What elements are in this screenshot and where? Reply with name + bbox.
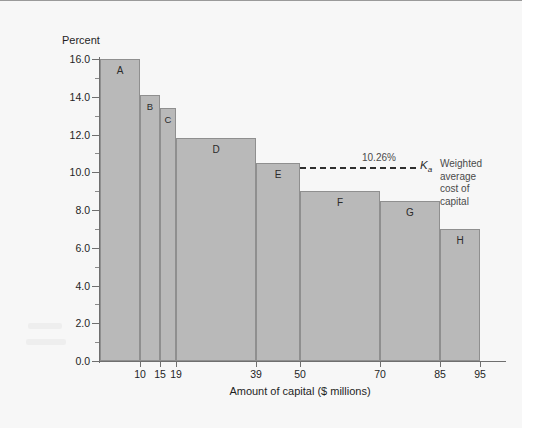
bar-label: B [141, 101, 159, 112]
x-axis-tick-label: 10 [134, 368, 146, 380]
y-axis-tick [92, 135, 99, 136]
wacc-caption-line: average [440, 171, 510, 184]
wacc-caption-line: capital [440, 196, 510, 209]
bar-label: E [257, 169, 299, 180]
y-axis-tick [92, 323, 99, 324]
bar-label: F [301, 197, 379, 208]
y-axis-tick [92, 210, 99, 211]
y-axis-tick-label: 10.0 [30, 166, 90, 178]
y-axis-minor-tick [95, 229, 99, 230]
wacc-symbol-label: Ka [420, 159, 432, 174]
x-axis-title: Amount of capital ($ millions) [100, 385, 500, 397]
wacc-caption-line: Weighted [440, 158, 510, 171]
y-axis-tick [92, 59, 99, 60]
x-axis-tick [256, 362, 257, 367]
y-axis-minor-tick [95, 267, 99, 268]
x-axis-tick [160, 362, 161, 367]
bar-f: F [300, 191, 380, 361]
x-axis-tick [380, 362, 381, 367]
y-axis-minor-tick [95, 78, 99, 79]
x-axis-tick [300, 362, 301, 367]
bar-label: C [161, 114, 175, 125]
x-axis-tick-label: 39 [250, 368, 262, 380]
y-axis-tick-label: 4.0 [30, 280, 90, 292]
figure-panel: Percent 0.02.04.06.08.010.012.014.016.0 … [0, 0, 522, 428]
y-axis-tick [92, 248, 99, 249]
plot-area: ABCDEFGH [100, 59, 500, 361]
wacc-value-label: 10.26% [362, 152, 396, 163]
bar-d: D [176, 138, 256, 361]
x-axis-tick-label: 15 [154, 368, 166, 380]
y-axis-minor-tick [95, 342, 99, 343]
bar-h: H [440, 229, 480, 361]
bar-label: A [101, 65, 139, 76]
x-axis-tick [140, 362, 141, 367]
bar-a: A [100, 59, 140, 361]
y-axis-minor-tick [95, 153, 99, 154]
x-axis-tick-label: 95 [474, 368, 486, 380]
x-axis-tick [176, 362, 177, 367]
x-axis-tick-label: 70 [374, 368, 386, 380]
y-axis-tick-label: 12.0 [30, 129, 90, 141]
wacc-symbol-subscript: a [428, 166, 432, 175]
bar-b: B [140, 95, 160, 361]
bar-e: E [256, 163, 300, 361]
x-axis-tick [440, 362, 441, 367]
y-axis-tick [92, 97, 99, 98]
y-axis-minor-tick [95, 191, 99, 192]
y-axis-tick [92, 286, 99, 287]
x-axis-tick-label: 19 [170, 368, 182, 380]
bar-label: D [177, 144, 255, 155]
bar-label: H [441, 235, 479, 246]
bars-layer: ABCDEFGH [100, 59, 500, 361]
wacc-caption: Weightedaveragecost ofcapital [440, 158, 510, 208]
y-axis-tick [92, 172, 99, 173]
x-axis-tick [480, 362, 481, 367]
wacc-caption-line: cost of [440, 183, 510, 196]
y-axis-minor-tick [95, 116, 99, 117]
y-axis-tick [92, 361, 99, 362]
bar-c: C [160, 108, 176, 361]
x-axis-tick-label: 85 [434, 368, 446, 380]
bar-g: G [380, 201, 440, 361]
y-axis-tick-label: 14.0 [30, 91, 90, 103]
y-axis-minor-tick [95, 304, 99, 305]
y-axis-tick-label: 0.0 [30, 355, 90, 367]
y-axis-tick-label: 6.0 [30, 242, 90, 254]
x-axis-tick-label: 50 [294, 368, 306, 380]
y-axis-tick-label: 16.0 [30, 53, 90, 65]
y-axis-tick-label: 2.0 [30, 317, 90, 329]
y-axis-tick-labels: 0.02.04.06.08.010.012.014.016.0 [28, 1, 90, 440]
bar-label: G [381, 207, 439, 218]
wacc-symbol-letter: K [420, 159, 428, 171]
y-axis-tick-label: 8.0 [30, 204, 90, 216]
